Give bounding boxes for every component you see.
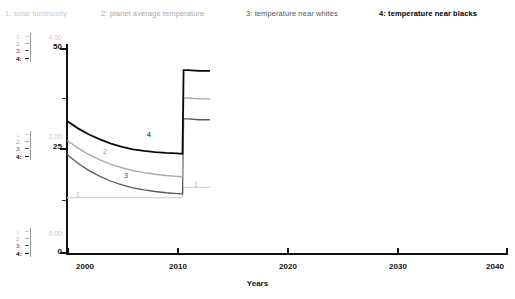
- curve-temperature-near-blacks: [67, 70, 210, 154]
- curve-label-4: 4: [147, 131, 151, 138]
- curve-label-1b: 1: [194, 181, 198, 188]
- curve-label-3: 3: [124, 172, 128, 179]
- chart-curves: [0, 0, 515, 299]
- curve-temperature-near-whites: [67, 119, 210, 194]
- curve-label-2: 2: [103, 148, 107, 155]
- curve-label-1: 1: [76, 191, 80, 198]
- curve-planet-average-temperature: [67, 98, 210, 177]
